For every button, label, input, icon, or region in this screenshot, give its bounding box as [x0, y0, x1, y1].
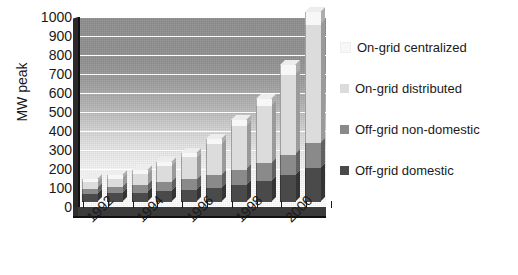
- y-axis-tick-label: 200: [28, 162, 72, 176]
- gridline: [78, 36, 326, 37]
- legend-label: Off-grid domestic: [355, 164, 454, 177]
- x-axis-tick: [133, 201, 134, 208]
- plot-area: [78, 17, 326, 207]
- bar-segment[interactable]: [280, 155, 296, 176]
- bar-segment[interactable]: [256, 163, 272, 181]
- legend-label: On-grid centralized: [357, 41, 467, 54]
- legend-item[interactable]: On-grid centralized: [340, 40, 467, 54]
- bar-segment[interactable]: [206, 144, 222, 175]
- bar-segment[interactable]: [280, 65, 296, 75]
- bar-stack: [82, 179, 97, 202]
- bar-segment[interactable]: [181, 179, 197, 189]
- y-axis-tick-label: 100: [28, 181, 72, 195]
- legend-item[interactable]: Off-grid domestic: [340, 163, 454, 177]
- bar-segment[interactable]: [156, 182, 172, 191]
- bar-stack: [181, 153, 196, 202]
- y-axis-tick-labels: 10009008007006005004003002001000: [28, 9, 72, 215]
- bar-stack: [280, 65, 295, 202]
- stacked-bar-chart: MW peak 10009008007006005004003002001000…: [0, 0, 518, 275]
- legend-label: Off-grid non-domestic: [355, 123, 480, 136]
- chart-legend: On-grid centralizedOn-grid distributedOf…: [340, 40, 518, 190]
- legend-item[interactable]: Off-grid non-domestic: [340, 122, 480, 136]
- y-axis-line: [78, 17, 80, 208]
- y-axis-tick-label: 300: [28, 143, 72, 157]
- bar-segment[interactable]: [132, 174, 148, 185]
- bar-stack: [305, 12, 320, 202]
- bar-segment[interactable]: [305, 143, 321, 168]
- bar-segment[interactable]: [181, 157, 197, 179]
- x-axis-tick: [182, 201, 183, 208]
- x-axis-tick: [83, 201, 84, 208]
- bar-stack: [256, 99, 271, 202]
- bar-segment[interactable]: [280, 75, 296, 155]
- y-axis-tick-label: 700: [28, 67, 72, 81]
- bar-segment[interactable]: [107, 179, 123, 188]
- x-axis-tick: [331, 201, 332, 208]
- x-axis-tick: [281, 201, 282, 208]
- legend-swatch: [340, 166, 349, 175]
- bar-segment[interactable]: [256, 99, 272, 106]
- bar-segment[interactable]: [132, 185, 148, 192]
- gridline: [78, 17, 326, 18]
- y-axis-tick-label: 1000: [28, 10, 72, 24]
- gridline: [78, 55, 326, 56]
- y-axis-tick-label: 600: [28, 86, 72, 100]
- bar-segment[interactable]: [231, 126, 247, 170]
- bar-segment[interactable]: [280, 175, 296, 202]
- y-axis-tick-label: 400: [28, 124, 72, 138]
- bar-stack: [206, 139, 221, 202]
- bar-segment[interactable]: [206, 175, 222, 187]
- y-axis-tick-label: 900: [28, 29, 72, 43]
- bar-segment[interactable]: [231, 185, 247, 202]
- bar-stack: [132, 170, 147, 202]
- y-axis-tick-label: 800: [28, 48, 72, 62]
- legend-label: On-grid distributed: [355, 82, 462, 95]
- y-axis-tick-label: 500: [28, 105, 72, 119]
- bar-segment[interactable]: [231, 170, 247, 185]
- bar-stack: [231, 120, 246, 202]
- legend-swatch: [340, 125, 349, 134]
- x-axis-tick: [232, 201, 233, 208]
- legend-swatch: [340, 84, 349, 93]
- bar-segment[interactable]: [305, 25, 321, 143]
- x-axis-tick-labels: 19921994199619982000: [0, 210, 360, 270]
- bar-segment[interactable]: [82, 182, 98, 189]
- bar-segment[interactable]: [156, 166, 172, 182]
- legend-item[interactable]: On-grid distributed: [340, 81, 462, 95]
- bar-segment[interactable]: [256, 106, 272, 163]
- bar-segment[interactable]: [305, 12, 321, 25]
- legend-swatch: [340, 42, 351, 53]
